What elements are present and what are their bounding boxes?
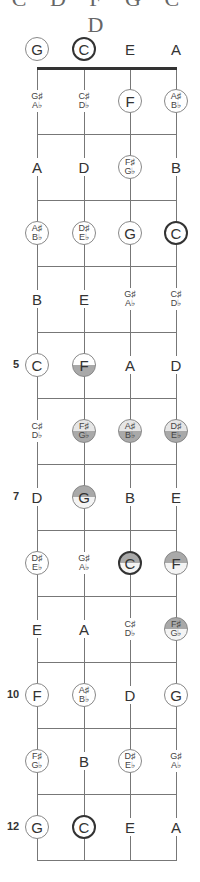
note-label: D xyxy=(171,358,182,373)
note-label: B xyxy=(171,160,181,175)
note-label: B xyxy=(125,490,135,505)
note-marker: E xyxy=(120,818,140,836)
note-label: C xyxy=(125,556,136,571)
fret-line xyxy=(37,398,177,399)
note-marker: D♯E♭ xyxy=(118,749,142,773)
note-label-alt: D♭ xyxy=(32,431,43,440)
note-marker: C xyxy=(72,815,96,839)
note-marker: A xyxy=(74,620,94,638)
note-marker: A xyxy=(166,818,186,836)
diagram-title: C D F G C D xyxy=(0,0,200,38)
note-label: D xyxy=(32,490,43,505)
note-label-alt: G♭ xyxy=(31,761,42,770)
fret-line xyxy=(37,794,177,795)
note-label-alt: A♭ xyxy=(171,761,181,770)
nut xyxy=(37,67,177,70)
note-marker: A♯B♭ xyxy=(164,89,188,113)
note-marker: G♯A♭ xyxy=(166,750,186,772)
note-marker: C♯D♭ xyxy=(74,90,94,112)
note-marker: A xyxy=(166,40,186,58)
fret-line xyxy=(37,860,177,861)
note-marker: D xyxy=(120,686,140,704)
fret-line xyxy=(37,662,177,663)
note-marker: B xyxy=(120,488,140,506)
note-label-alt: E♭ xyxy=(171,431,181,440)
note-marker: F♯G♭ xyxy=(72,419,96,443)
fret-line xyxy=(37,530,177,531)
fret-number: 10 xyxy=(7,688,19,700)
note-label: B xyxy=(79,754,89,769)
note-label: F xyxy=(79,358,88,373)
note-label: E xyxy=(79,292,89,307)
note-label-alt: A♭ xyxy=(79,563,89,572)
note-label: A xyxy=(125,358,135,373)
note-marker: E xyxy=(74,290,94,308)
note-label-alt: E♭ xyxy=(79,233,89,242)
note-label: E xyxy=(171,490,181,505)
note-marker: C xyxy=(118,551,142,575)
note-marker: F♯G♭ xyxy=(164,617,188,641)
note-marker: F♯G♭ xyxy=(25,749,49,773)
note-marker: A xyxy=(27,158,47,176)
note-label: E xyxy=(125,42,135,57)
note-label-alt: A♭ xyxy=(32,101,42,110)
note-marker: D xyxy=(27,488,47,506)
note-label-alt: G♭ xyxy=(124,167,135,176)
note-marker: D♯E♭ xyxy=(72,221,96,245)
note-label: C xyxy=(79,820,90,835)
fret-line xyxy=(37,266,177,267)
fret-number: 7 xyxy=(13,490,19,502)
note-label-alt: B♭ xyxy=(79,695,89,704)
note-label: E xyxy=(32,622,42,637)
note-marker: F xyxy=(25,683,49,707)
note-marker: C xyxy=(25,353,49,377)
note-marker: D xyxy=(74,158,94,176)
note-marker: B xyxy=(74,752,94,770)
note-marker: G♯A♭ xyxy=(120,288,140,310)
note-label: G xyxy=(31,42,43,57)
note-label: G xyxy=(170,688,182,703)
note-marker: D♯E♭ xyxy=(164,419,188,443)
note-label: G xyxy=(78,490,90,505)
note-marker: G♯A♭ xyxy=(74,552,94,574)
note-marker: C xyxy=(72,37,96,61)
note-marker: A xyxy=(120,356,140,374)
note-label: F xyxy=(125,94,134,109)
note-label: E xyxy=(125,820,135,835)
note-marker: E xyxy=(27,620,47,638)
fret-line xyxy=(37,596,177,597)
note-label: G xyxy=(124,226,136,241)
note-marker: E xyxy=(166,488,186,506)
note-marker: D♯E♭ xyxy=(25,551,49,575)
note-label: G xyxy=(31,820,43,835)
note-label-alt: A♭ xyxy=(125,299,135,308)
note-label-alt: B♭ xyxy=(32,233,42,242)
fret-line xyxy=(37,332,177,333)
note-label-alt: D♭ xyxy=(171,299,182,308)
note-marker: G xyxy=(72,485,96,509)
note-label: A xyxy=(171,820,181,835)
fret-line xyxy=(37,134,177,135)
note-marker: B xyxy=(27,290,47,308)
note-label-alt: G♭ xyxy=(170,629,181,638)
note-label: B xyxy=(32,292,42,307)
note-marker: C♯D♭ xyxy=(166,288,186,310)
note-label-alt: E♭ xyxy=(125,761,135,770)
note-marker: B xyxy=(166,158,186,176)
note-label-alt: B♭ xyxy=(171,101,181,110)
note-label-alt: D♭ xyxy=(125,629,136,638)
note-label: A xyxy=(32,160,42,175)
note-marker: F xyxy=(164,551,188,575)
fret-number: 5 xyxy=(13,358,19,370)
note-label: C xyxy=(32,358,43,373)
note-label: D xyxy=(125,688,136,703)
fret-line xyxy=(37,464,177,465)
note-label: D xyxy=(79,160,90,175)
note-label: F xyxy=(32,688,41,703)
note-marker: G xyxy=(25,37,49,61)
note-marker: C♯D♭ xyxy=(120,618,140,640)
note-marker: A♯B♭ xyxy=(25,221,49,245)
note-marker: C xyxy=(164,221,188,245)
note-label-alt: B♭ xyxy=(125,431,135,440)
note-label-alt: G♭ xyxy=(78,431,89,440)
